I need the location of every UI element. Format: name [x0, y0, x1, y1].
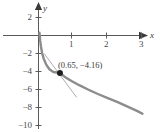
y-tick-label-minus-2: −2: [12, 49, 32, 58]
tangent-point-marker: [57, 70, 63, 76]
function-curve: [39, 33, 142, 114]
x-axis-label: x: [150, 31, 154, 40]
y-tick-label-minus-10: −10: [6, 121, 32, 130]
y-tick-label-minus-4: −4: [12, 67, 32, 76]
y-axis-arrowhead: [35, 2, 42, 10]
y-tick-label-2: 2: [14, 13, 32, 22]
graph-figure: 2 −2 −4 −6 −8 −10 1 2 3 x y (0.65, −4.16…: [0, 0, 160, 132]
point-coordinate-annotation: (0.65, −4.16): [58, 61, 102, 70]
x-tick-label-1: 1: [69, 40, 74, 49]
y-tick-label-minus-8: −8: [12, 103, 32, 112]
x-tick-label-2: 2: [104, 40, 109, 49]
x-tick-label-3: 3: [139, 40, 144, 49]
y-tick-label-minus-6: −6: [12, 85, 32, 94]
y-axis-label: y: [43, 4, 47, 13]
